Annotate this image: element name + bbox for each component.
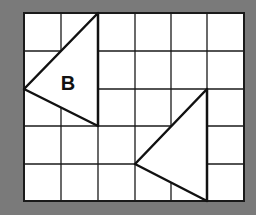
- grid-background: [24, 13, 244, 201]
- triangle-b-label: B: [61, 72, 75, 94]
- grid-diagram: B: [0, 0, 256, 215]
